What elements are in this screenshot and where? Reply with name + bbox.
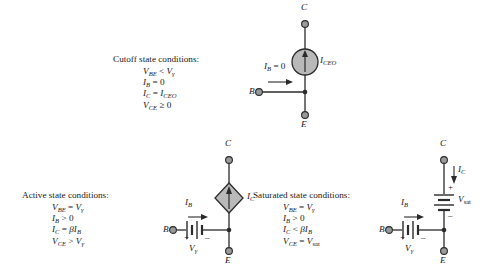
condition-row: VBE = Vγ	[283, 202, 350, 213]
ce-battery-label: Vsat	[458, 194, 471, 204]
terminal-e-node	[226, 248, 233, 255]
terminal-e-label: E	[225, 255, 231, 265]
terminal-e-node	[441, 248, 448, 255]
cutoff-circuit: C E B ICEO IB = 0	[250, 2, 380, 127]
base-current-arrow-head-icon	[417, 214, 424, 220]
condition-row: IB > 0	[283, 213, 350, 224]
be-battery-minus-sign: –	[421, 232, 426, 242]
condition-row: VCE = Vsat	[283, 236, 350, 247]
base-current-arrow-head-icon	[286, 79, 293, 85]
terminal-b-node	[386, 227, 393, 234]
condition-row: IB > 0	[52, 213, 109, 224]
terminal-b-node	[256, 89, 263, 96]
terminal-c-label: C	[440, 138, 446, 148]
terminal-b-label: B	[249, 86, 255, 96]
terminal-b-node	[170, 227, 177, 234]
junction-dot	[303, 90, 308, 95]
saturated-condition-list: VBE = Vγ IB > 0 IC < βIB VCE = Vsat	[283, 202, 350, 247]
saturated-circuit: C E B IC IB + – Vsat + – Vγ	[388, 138, 488, 263]
battery-label: Vγ	[189, 243, 197, 253]
active-condition-list: VBE = Vγ IB > 0 IC = βIB VCE > Vγ	[52, 202, 109, 247]
battery-plus-sign: +	[184, 232, 189, 242]
condition-row: VCE > Vγ	[52, 236, 109, 247]
terminal-c-node	[302, 21, 309, 28]
condition-row: IC = ICEO	[143, 88, 199, 99]
base-current-label: IB	[185, 197, 192, 207]
battery-minus-sign: –	[205, 232, 210, 242]
terminal-c-label: C	[225, 138, 231, 148]
base-current-arrow-head-icon	[201, 214, 208, 220]
ce-battery-plus-sign: +	[448, 182, 453, 192]
condition-row: IC < βIB	[283, 224, 350, 235]
condition-row: VBE < Vγ	[143, 66, 199, 77]
base-current-label: IB = 0	[264, 61, 285, 71]
terminal-e-label: E	[440, 255, 446, 265]
terminal-e-node	[302, 112, 309, 119]
cutoff-heading: Cutoff state conditions:	[113, 54, 199, 64]
collector-current-label: IC	[458, 164, 465, 174]
terminal-e-label: E	[301, 119, 307, 129]
terminal-b-label: B	[379, 224, 385, 234]
be-battery-plus-sign: +	[400, 232, 405, 242]
cutoff-conditions-block: Cutoff state conditions: VBE < Vγ IB = 0…	[113, 54, 199, 111]
saturated-conditions-block: Saturated state conditions: VBE = Vγ IB …	[253, 190, 350, 247]
active-heading: Active state conditions:	[22, 190, 109, 200]
terminal-c-node	[226, 157, 233, 164]
base-current-label: IB	[401, 197, 408, 207]
terminal-c-node	[441, 157, 448, 164]
terminal-c-label: C	[301, 2, 307, 12]
terminal-b-label: B	[163, 224, 169, 234]
cutoff-condition-list: VBE < Vγ IB = 0 IC = ICEO VCE ≥ 0	[143, 66, 199, 111]
active-conditions-block: Active state conditions: VBE = Vγ IB > 0…	[22, 190, 109, 247]
condition-row: IB = 0	[143, 77, 199, 88]
source-label: ICEO	[320, 55, 336, 65]
figure-canvas: Cutoff state conditions: VBE < Vγ IB = 0…	[0, 0, 488, 267]
saturated-heading: Saturated state conditions:	[253, 190, 350, 200]
be-battery-label: Vγ	[405, 243, 413, 253]
condition-row: IC = βIB	[52, 224, 109, 235]
ce-battery-minus-sign: –	[448, 210, 453, 220]
condition-row: VCE ≥ 0	[143, 100, 199, 111]
condition-row: VBE = Vγ	[52, 202, 109, 213]
